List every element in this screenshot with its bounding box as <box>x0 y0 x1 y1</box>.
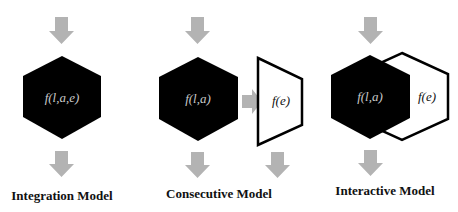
integration-function-label: f(l,a,e) <box>45 90 80 106</box>
input-arrow-icon <box>358 17 383 44</box>
output-arrow-icon <box>185 152 210 178</box>
interactive-emotion-label: f(e) <box>418 89 436 105</box>
consecutive-language-label: f(l,a) <box>185 91 211 107</box>
interactive-language-label: f(l,a) <box>357 89 383 105</box>
interactive-model-title: Interactive Model <box>335 183 434 199</box>
input-arrow-icon <box>49 17 74 44</box>
output-arrow-icon <box>265 152 290 178</box>
input-arrow-icon <box>185 17 210 44</box>
consecutive-emotion-label: f(e) <box>272 93 290 109</box>
output-arrow-icon <box>49 151 74 177</box>
diagram-canvas <box>0 0 458 212</box>
integration-model-title: Integration Model <box>11 188 112 204</box>
consecutive-model-title: Consecutive Model <box>166 186 272 202</box>
output-arrow-icon <box>358 150 383 176</box>
